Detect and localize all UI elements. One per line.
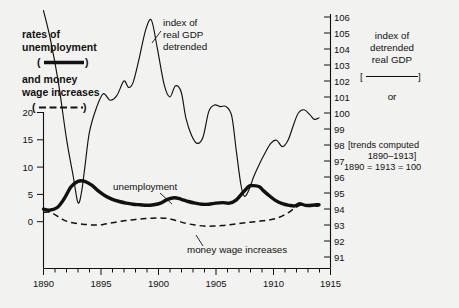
annotation-gdp-line2: real GDP [163,29,204,40]
x-tick-label-1900: 1900 [148,278,169,289]
left-tick-label-15: 15 [22,134,33,145]
dashed-line-key: ( ) [32,101,87,113]
right-tick-label-102: 102 [334,76,350,87]
right-axis-ticks [324,17,331,257]
annotation-gdp-line3: detrended [163,41,207,52]
economics-line-chart: rates of unemployment ( ) and money wage… [0,0,459,308]
right-legend-note1: [trends computed [348,140,419,150]
right-tick-label-96: 96 [334,172,345,183]
series-money-wage-increases-line [44,205,320,226]
right-tick-label-94: 94 [334,204,345,215]
left-tick-label-20: 20 [22,107,33,118]
right-tick-label-98: 98 [334,140,345,151]
right-tick-label-103: 103 [334,60,350,71]
annotation-gdp: index of real GDP detrended [152,17,207,52]
right-tick-label-106: 106 [334,12,350,23]
right-legend: index of detrended real GDP [ ] or [tren… [344,30,421,172]
right-tick-label-105: 105 [334,28,350,39]
annotation-unemployment: unemployment [113,181,178,204]
right-axis: 106 105 104 103 102 101 100 99 98 97 96 … [324,12,350,269]
right-tick-label-100: 100 [334,108,350,119]
annotation-wages-label: money wage increases [187,244,287,255]
left-axis: 20 15 10 5 0 [22,107,43,268]
right-legend-line1: index of [375,30,410,41]
x-tick-label-1910: 1910 [263,278,284,289]
chart-canvas: rates of unemployment ( ) and money wage… [0,0,459,308]
right-legend-or: or [388,91,397,102]
left-tick-label-0: 0 [28,216,33,227]
right-legend-note3: 1890 = 1913 = 100 [344,162,421,172]
annotation-unemployment-label: unemployment [113,181,178,192]
right-tick-label-99: 99 [334,124,345,135]
right-legend-note2: 1890–1913] [368,151,417,161]
right-tick-label-101: 101 [334,92,350,103]
solid-line-key: ( ) [37,56,89,68]
left-legend-line2: unemployment [22,41,97,53]
x-tick-label-1890: 1890 [33,278,54,289]
x-axis: 1890 1895 1900 1905 1910 1915 [33,269,341,290]
x-tick-label-1915: 1915 [320,278,341,289]
gdp-key-open-bracket: [ [360,71,363,82]
annotation-gdp-line1: index of [163,17,198,28]
left-legend-line3: and money [22,73,78,85]
solid-key-open-paren: ( [37,56,41,68]
left-legend-line1: rates of [22,28,60,40]
x-tick-label-1905: 1905 [205,278,226,289]
left-tick-label-5: 5 [28,189,33,200]
right-tick-label-104: 104 [334,44,350,55]
gdp-key-close-bracket: ] [418,71,421,82]
right-tick-label-97: 97 [334,156,345,167]
x-axis-ticks [44,269,331,276]
left-tick-label-10: 10 [22,162,33,173]
right-tick-label-92: 92 [334,236,345,247]
dash-key-close-paren: ) [83,101,87,113]
right-tick-label-95: 95 [334,188,345,199]
annotation-wages: money wage increases [187,235,287,255]
right-legend-line2: detrended [370,42,414,53]
series-unemployment-line [44,181,320,211]
solid-key-close-paren: ) [85,56,89,68]
gdp-line-key: [ ] [360,71,421,82]
left-legend: rates of unemployment ( ) and money wage… [21,28,100,113]
right-tick-label-91: 91 [334,252,345,263]
right-tick-label-93: 93 [334,220,345,231]
x-tick-label-1895: 1895 [90,278,111,289]
right-legend-line3: real GDP [372,54,413,65]
